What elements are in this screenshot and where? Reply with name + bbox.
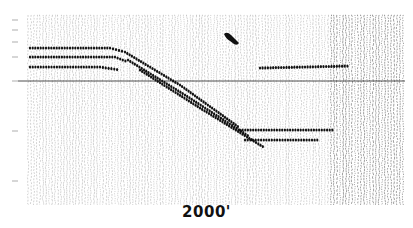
reflector-flat-upper-3	[67, 65, 69, 68]
reflector-dipping-2	[184, 93, 186, 96]
reflector-flat-upper-3	[48, 65, 50, 68]
reflector-dipping-2	[179, 91, 181, 94]
reflector-flat-upper-2	[119, 57, 121, 60]
reflector-flat-upper-1	[72, 46, 74, 49]
reflector-flat-upper-1	[40, 46, 42, 49]
reflector-flat-upper-1	[109, 46, 111, 49]
reflector-flat-upper-3	[45, 65, 47, 68]
reflector-flat-upper-2	[79, 55, 81, 58]
reflector-dipping-3	[226, 123, 228, 126]
reflector-flat-upper-2	[90, 55, 92, 58]
reflector-dipping-3	[143, 71, 145, 74]
reflector-flat-right	[270, 66, 272, 69]
reflector-dipping-1	[174, 81, 176, 84]
reflector-flat-upper-1	[61, 46, 63, 49]
reflector-flat-lower-2	[289, 138, 291, 141]
reflector-flat-upper-3	[91, 65, 93, 68]
reflector-flat-right	[280, 66, 282, 69]
reflector-flat-upper-2	[117, 56, 119, 59]
reflector-dipping-1	[145, 63, 147, 66]
reflector-flat-right	[275, 66, 277, 69]
reflector-flat-upper-1	[66, 46, 68, 49]
reflector-flat-upper-1	[106, 46, 108, 49]
reflector-dipping-3	[239, 131, 241, 134]
reflector-flat-right	[346, 65, 348, 68]
reflector-dipping-1	[177, 82, 179, 85]
reflector-flat-upper-3	[53, 65, 55, 68]
reflector-flat-right	[322, 65, 324, 68]
reflector-dipping-1	[228, 119, 230, 122]
reflector-flat-lower-2	[252, 138, 254, 141]
reflector-flat-lower-1	[252, 128, 254, 131]
reflector-flat-upper-3	[85, 65, 87, 68]
reflector-flat-lower-2	[244, 138, 246, 141]
reflector-flat-lower-1	[276, 128, 278, 131]
reflector-dipping-3	[190, 101, 192, 104]
reflector-dipping-3	[150, 75, 152, 78]
reflector-flat-upper-3	[110, 67, 112, 70]
reflector-flat-upper-1	[121, 50, 123, 53]
reflector-dipping-3	[157, 80, 159, 83]
reflector-dipping-1	[188, 90, 190, 93]
reflector-dipping-1	[192, 93, 194, 96]
reflector-flat-upper-2	[29, 55, 31, 58]
reflector-dipping-2	[195, 101, 197, 104]
reflector-flat-upper-2	[40, 55, 42, 58]
reflector-flat-upper-3	[61, 65, 63, 68]
reflector-flat-upper-3	[80, 65, 82, 68]
reflector-flat-lower-1	[265, 128, 267, 131]
reflector-dipping-1	[196, 96, 198, 99]
reflector-dipping-1	[154, 68, 156, 71]
reflector-dipping-1	[194, 94, 196, 97]
reflector-flat-right	[320, 65, 322, 68]
reflector-flat-right	[317, 65, 319, 68]
reflector-flat-right	[259, 66, 261, 69]
reflector-flat-lower-2	[287, 138, 289, 141]
reflector-dipping-2	[159, 78, 161, 81]
reflector-dipping-2	[168, 84, 170, 87]
reflector-flat-upper-2	[69, 55, 71, 58]
reflector-flat-upper-3	[50, 65, 52, 68]
reflector-flat-lower-2	[276, 138, 278, 141]
reflector-flat-upper-1	[74, 46, 76, 49]
reflector-flat-upper-2	[82, 55, 84, 58]
reflector-flat-lower-1	[271, 128, 273, 131]
reflector-dipping-1	[124, 50, 126, 53]
reflector-flat-lower-2	[284, 138, 286, 141]
reflector-dipping-3	[141, 70, 143, 73]
reflector-dipping-3	[159, 81, 161, 84]
reflector-flat-right	[301, 66, 303, 69]
reflector-flat-lower-1	[250, 128, 252, 131]
reflector-dipping-2	[163, 81, 165, 84]
reflector-dipping-1	[220, 113, 222, 116]
reflector-flat-lower-1	[318, 128, 320, 131]
reflector-flat-upper-3	[113, 68, 115, 71]
reflector-flat-lower-1	[310, 128, 312, 131]
reflector-flat-lower-2	[314, 138, 316, 141]
reflector-dipping-3	[219, 119, 221, 122]
reflector-dipping-2	[191, 98, 193, 101]
reflector-dipping-3	[197, 105, 199, 108]
reflector-flat-right	[288, 66, 290, 69]
reflector-flat-lower-1	[257, 128, 259, 131]
reflector-dipping-2	[152, 74, 154, 77]
seismic-figure: 2000'	[0, 0, 413, 228]
reflector-flat-lower-2	[268, 138, 270, 141]
reflector-dipping-2	[132, 61, 134, 64]
reflector-flat-lower-2	[265, 138, 267, 141]
reflector-dipping-1	[140, 60, 142, 63]
reflector-dipping-3	[168, 87, 170, 90]
reflector-dipping-2	[202, 105, 204, 108]
reflector-flat-upper-2	[71, 55, 73, 58]
reflector-dipping-3	[163, 84, 165, 87]
reflector-dipping-1	[151, 67, 153, 70]
reflector-dipping-3	[195, 104, 197, 107]
scale-label: 2000'	[0, 203, 413, 221]
reflector-dipping-1	[133, 56, 135, 59]
reflector-dipping-1	[179, 83, 181, 86]
reflector-flat-upper-1	[115, 48, 117, 51]
reflector-dipping-3	[224, 122, 226, 125]
reflector-flat-lower-2	[308, 138, 310, 141]
reflector-flat-upper-1	[98, 46, 100, 49]
reflector-dipping-1	[170, 78, 172, 81]
